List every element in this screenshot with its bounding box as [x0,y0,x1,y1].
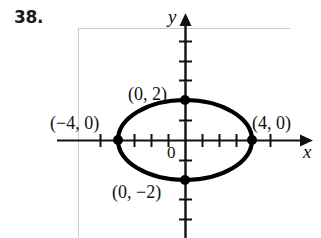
point-top-vertex [180,95,190,105]
label-bottom-vertex: (0, −2) [112,183,161,201]
y-axis-arrow-icon [180,13,192,26]
origin-label: 0 [167,144,176,161]
x-axis-label: x [303,142,311,161]
label-right-vertex: (4, 0) [252,114,291,132]
point-right-vertex [247,135,257,145]
point-left-vertex [113,135,123,145]
y-axis [179,13,192,238]
label-top-vertex: (0, 2) [128,85,167,103]
y-axis-label: y [168,7,176,26]
coordinate-graph: y x 0 (−4, 0) (4, 0) (0, 2) (0, −2) [0,0,321,238]
point-bottom-vertex [180,175,190,185]
label-left-vertex: (−4, 0) [50,114,99,132]
figure-panel: 38. [0,0,321,238]
